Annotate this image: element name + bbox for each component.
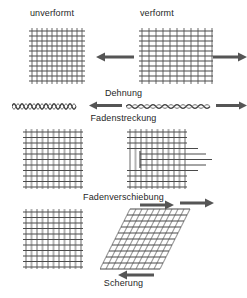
grid-undeformed-scherung [22, 208, 84, 270]
grid-deformed-scherung [100, 208, 196, 270]
mode-label-dehnung: Dehnung [0, 88, 247, 98]
arrow-right-fadenstreckung [216, 101, 247, 110]
mode-label-scherung: Scherung [0, 278, 247, 288]
grid-deformed-fadenverschiebung [126, 128, 218, 190]
arrow-right-dehnung [213, 52, 247, 62]
mode-label-fadenstreckung: Fadenstreckung [0, 113, 247, 123]
grid-undeformed-dehnung [28, 27, 86, 85]
grid-undeformed-fadenverschiebung [22, 128, 84, 190]
column-header-deformed: verformt [140, 8, 174, 18]
arrow-left-fadenstreckung [89, 101, 122, 110]
textile-deformation-diagram: unverformt verformt [0, 0, 247, 298]
arrow-right-scherung [140, 200, 174, 210]
grid-deformed-dehnung [138, 27, 214, 85]
arrow-right-fadenverschiebung [180, 198, 214, 208]
column-header-undeformed: unverformt [30, 8, 74, 18]
arrow-left-dehnung [96, 52, 134, 62]
thread-crimped-undeformed [12, 100, 78, 113]
thread-straightened-deformed [126, 101, 214, 112]
